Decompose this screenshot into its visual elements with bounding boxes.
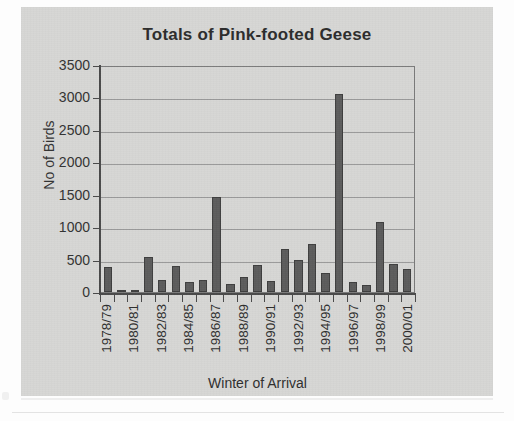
bar — [240, 277, 248, 292]
bar — [362, 285, 370, 292]
x-axis-tick-mark — [251, 295, 252, 302]
x-axis-tick-mark — [401, 295, 402, 302]
x-axis-tick-mark — [100, 295, 101, 302]
y-axis-tick-mark — [93, 293, 100, 294]
x-axis-tick-mark — [292, 295, 293, 302]
bar-series — [101, 67, 414, 292]
x-axis-tick-labels: 1978/791980/811982/831984/851986/871988/… — [100, 304, 415, 378]
bar-slot — [210, 67, 224, 292]
x-label-slot — [141, 304, 155, 378]
x-label-slot — [169, 304, 183, 378]
bar — [376, 222, 384, 292]
bar-slot — [264, 67, 278, 292]
x-axis-tick-mark — [360, 295, 361, 302]
x-axis-tick-label: 1978/79 — [100, 304, 114, 353]
x-axis-tick-mark — [347, 295, 348, 302]
x-axis-tick-mark — [114, 295, 115, 302]
bar — [158, 280, 166, 292]
bar-slot — [292, 67, 306, 292]
x-label-slot — [360, 304, 374, 378]
bar — [185, 282, 193, 292]
x-label-slot: 1988/89 — [237, 304, 251, 378]
bar-slot — [237, 67, 251, 292]
x-axis-tick-mark — [333, 295, 334, 302]
x-axis-tick-label: 2000/01 — [402, 304, 416, 353]
x-axis-tick-label: 1994/95 — [319, 304, 333, 353]
y-axis-tick-label: 0 — [24, 285, 90, 299]
bar — [117, 290, 125, 292]
bar-slot — [223, 67, 237, 292]
y-axis-tick-mark — [93, 66, 100, 67]
x-axis-tick-label: 1982/83 — [155, 304, 169, 353]
bar-slot — [196, 67, 210, 292]
bar — [281, 249, 289, 292]
scan-shadow-lower — [12, 412, 504, 413]
bar — [172, 266, 180, 292]
bar — [308, 244, 316, 292]
x-axis-title: Winter of Arrival — [100, 375, 415, 391]
bar — [199, 280, 207, 292]
x-label-slot — [278, 304, 292, 378]
x-axis-line — [99, 293, 416, 295]
scan-shadow-upper — [21, 398, 493, 400]
y-axis-tick-mark — [93, 196, 100, 197]
x-axis-tick-label: 1986/87 — [210, 304, 224, 353]
x-axis-tick-mark — [305, 295, 306, 302]
y-axis-tick-label: 500 — [24, 253, 90, 267]
x-axis-tick-mark — [278, 295, 279, 302]
bar — [267, 281, 275, 292]
bar — [389, 264, 397, 292]
x-axis-tick-mark — [182, 295, 183, 302]
bar-slot — [128, 67, 142, 292]
chart-title: Totals of Pink-footed Geese — [21, 25, 493, 45]
x-axis-tick-label: 1992/93 — [292, 304, 306, 353]
bar-slot — [387, 67, 401, 292]
y-axis-tick-label: 1000 — [24, 220, 90, 234]
x-axis-tick-mark — [237, 295, 238, 302]
x-axis-tick-label: 1996/97 — [347, 304, 361, 353]
y-axis-tick-mark — [93, 163, 100, 164]
x-axis-tick-label: 1998/99 — [374, 304, 388, 353]
scan-edge-artifact — [2, 392, 9, 400]
bar-slot — [400, 67, 414, 292]
x-axis-tick-mark — [155, 295, 156, 302]
bar-slot — [183, 67, 197, 292]
x-label-slot: 1984/85 — [182, 304, 196, 378]
x-label-slot: 1998/99 — [374, 304, 388, 378]
chart-figure: Totals of Pink-footed Geese 350030002500… — [21, 7, 493, 396]
bar — [226, 284, 234, 292]
x-axis-tick-mark — [374, 295, 375, 302]
bar-slot — [278, 67, 292, 292]
bar-slot — [373, 67, 387, 292]
bar — [131, 290, 139, 292]
x-axis-tick-label: 1984/85 — [182, 304, 196, 353]
bar-slot — [319, 67, 333, 292]
x-label-slot: 1978/79 — [100, 304, 114, 378]
x-axis-tick-mark — [127, 295, 128, 302]
x-axis-tick-mark — [196, 295, 197, 302]
bar-slot — [155, 67, 169, 292]
x-axis-tick-mark — [388, 295, 389, 302]
y-axis-tick-label: 1500 — [24, 188, 90, 202]
x-axis-tick-label: 1980/81 — [128, 304, 142, 353]
y-axis-title: No of Birds — [41, 80, 57, 230]
bar-slot — [251, 67, 265, 292]
x-label-slot: 1996/97 — [347, 304, 361, 378]
bar-slot — [169, 67, 183, 292]
bar — [294, 260, 302, 292]
y-axis-tick-mark — [93, 261, 100, 262]
x-axis-tick-mark — [210, 295, 211, 302]
bar — [104, 267, 112, 292]
x-axis-tick-mark — [141, 295, 142, 302]
y-axis-tick-label: 2500 — [24, 123, 90, 137]
x-axis-tick-label: 1988/89 — [237, 304, 251, 353]
x-axis-tick-mark — [264, 295, 265, 302]
bar — [349, 282, 357, 292]
bar — [321, 273, 329, 292]
x-label-slot: 1980/81 — [127, 304, 141, 378]
x-label-slot — [333, 304, 347, 378]
y-axis-tick-label: 2000 — [24, 155, 90, 169]
x-label-slot: 1994/95 — [319, 304, 333, 378]
x-axis-tick-mark — [319, 295, 320, 302]
y-axis-tick-mark — [93, 131, 100, 132]
